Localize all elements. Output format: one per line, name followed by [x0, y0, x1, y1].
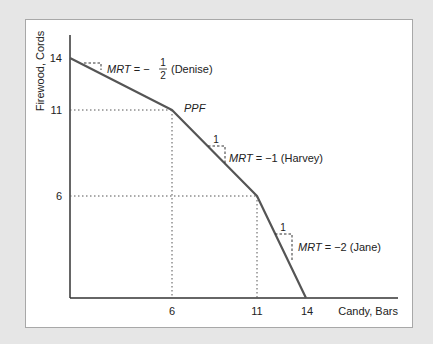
svg-text:MRT = −: MRT = − [107, 63, 150, 75]
x-tick-14: 14 [301, 305, 313, 317]
y-axis-label: Firewood, Cords [34, 30, 46, 111]
denise-name: (Denise) [171, 63, 213, 75]
denise-frac-den: 2 [160, 70, 166, 81]
ppf-label: PPF [184, 102, 207, 114]
svg-text:MRT = −1 (Harvey): MRT = −1 (Harvey) [229, 152, 323, 164]
y-tick-14: 14 [50, 52, 62, 64]
mrt-text: MRT [298, 241, 323, 253]
denise-frac-num: 1 [160, 57, 166, 68]
y-tick-6: 6 [56, 190, 62, 202]
harvey-equals: = −1 (Harvey) [253, 152, 323, 164]
jane-run-label: 1 [280, 222, 286, 233]
x-axis-label: Candy, Bars [338, 305, 398, 317]
svg-text:MRT = −2 (Jane): MRT = −2 (Jane) [298, 241, 381, 253]
x-tick-6: 6 [169, 305, 175, 317]
y-tick-11: 11 [51, 104, 62, 116]
harvey-run-label: 1 [213, 134, 219, 145]
denise-annotation: MRT = − 1 2 (Denise) [107, 57, 213, 81]
harvey-annotation: 1 MRT = −1 (Harvey) [213, 134, 323, 164]
ppf-curve [70, 58, 306, 298]
jane-annotation: 1 MRT = −2 (Jane) [280, 222, 381, 253]
jane-equals: = −2 (Jane) [322, 241, 381, 253]
mrt-text: MRT [107, 63, 132, 75]
denise-equals: = − [131, 63, 150, 75]
mrt-text: MRT [229, 152, 254, 164]
reference-lines [70, 110, 257, 298]
x-tick-11: 11 [251, 305, 262, 317]
ppf-chart: 14 11 6 6 11 14 Candy, Bars Firewood, Co… [0, 0, 433, 344]
